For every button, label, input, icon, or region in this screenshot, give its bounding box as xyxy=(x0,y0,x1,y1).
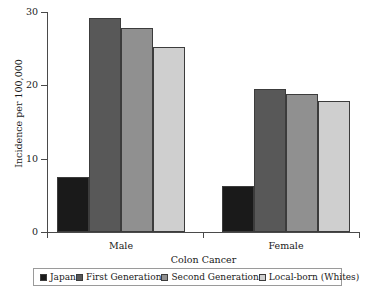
legend-label: Local-born (Whites) xyxy=(269,272,359,282)
x-tick-mark-right xyxy=(359,233,360,238)
legend-label: Japan xyxy=(50,272,76,282)
x-tick-mark-left xyxy=(47,233,48,238)
bar-male-local-born-whites xyxy=(153,47,185,232)
legend-label: Second Generation xyxy=(171,272,258,282)
x-axis-title: Colon Cancer xyxy=(47,254,360,265)
plot-area xyxy=(47,12,360,232)
bar-female-local-born-whites xyxy=(318,101,350,232)
x-group-label-male: Male xyxy=(61,240,181,251)
bar-chart-figure: 30 20 10 0 Incidence per 100,000 Male Fe… xyxy=(0,0,375,298)
bar-female-first-generation xyxy=(254,89,286,232)
chart-legend: JapanFirst GenerationSecond GenerationLo… xyxy=(33,268,342,286)
y-tick-label-0: 0 xyxy=(14,227,38,237)
legend-item-first-generation[interactable]: First Generation xyxy=(76,272,162,282)
legend-item-japan[interactable]: Japan xyxy=(40,272,76,282)
legend-item-local-born-whites[interactable]: Local-born (Whites) xyxy=(259,272,359,282)
bar-female-second-generation xyxy=(286,94,318,232)
legend-label: First Generation xyxy=(86,272,162,282)
legend-swatch-icon xyxy=(259,274,266,281)
y-tick-label-30: 30 xyxy=(14,7,38,17)
bar-male-first-generation xyxy=(89,18,121,232)
x-tick-mark-middle xyxy=(203,233,204,238)
legend-item-second-generation[interactable]: Second Generation xyxy=(161,272,258,282)
legend-swatch-icon xyxy=(76,274,83,281)
bar-male-japan xyxy=(57,177,89,232)
legend-swatch-icon xyxy=(40,274,47,281)
bar-male-second-generation xyxy=(121,28,153,232)
x-group-label-female: Female xyxy=(226,240,346,251)
y-axis-title: Incidence per 100,000 xyxy=(13,34,24,194)
legend-swatch-icon xyxy=(161,274,168,281)
bar-female-japan xyxy=(222,186,254,232)
